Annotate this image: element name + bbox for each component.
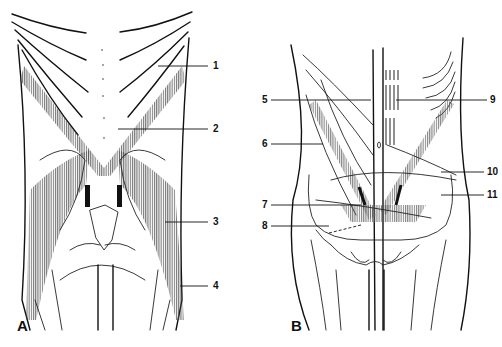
callout-2: 2: [213, 124, 219, 134]
panel-b-illustration: B 5 6 7 8 9 10 11: [251, 0, 502, 347]
callout-11: 11: [487, 190, 498, 200]
callout-1: 1: [213, 61, 219, 71]
callout-4: 4: [213, 281, 219, 291]
panel-b-drawing: [251, 0, 502, 347]
callout-9: 9: [490, 95, 496, 105]
callout-5: 5: [262, 95, 268, 105]
panel-a-drawing: [0, 0, 251, 347]
panel-a-letter: A: [17, 317, 28, 334]
panel-b-letter: B: [291, 317, 302, 334]
panel-a-illustration: A 1 2 3 4: [0, 0, 251, 347]
callout-8: 8: [262, 221, 268, 231]
callout-6: 6: [262, 139, 268, 149]
callout-10: 10: [487, 167, 498, 177]
callout-3: 3: [213, 217, 219, 227]
callout-7: 7: [262, 200, 268, 210]
